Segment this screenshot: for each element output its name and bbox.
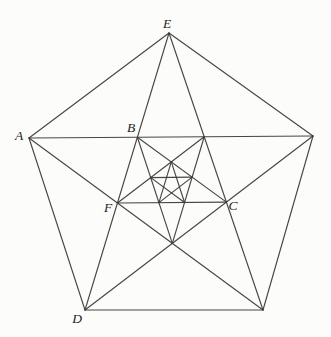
- pentagram-diagonal-level-3: [159, 162, 171, 203]
- pentagram-diagonal-level-2: [117, 137, 204, 203]
- pentagram-diagonal-level-1: [169, 33, 263, 310]
- pentagram-diagonal-level-1: [29, 136, 313, 138]
- pentagram-diagonal-level-2: [117, 202, 226, 203]
- pentagram-diagonal-level-1: [85, 136, 313, 310]
- pentagon-side: [29, 138, 85, 310]
- pentagon-side: [169, 33, 313, 136]
- nested-pentagram-diagram: [0, 0, 331, 337]
- pentagon-side: [29, 33, 169, 138]
- pentagram-diagonal-level-1: [85, 33, 169, 310]
- pentagon-side: [263, 136, 313, 310]
- pentagram-diagonal-level-2: [137, 137, 226, 202]
- pentagram-diagonal-level-3: [159, 177, 192, 203]
- pentagram-diagonal-level-3: [151, 178, 185, 203]
- pentagram-diagonal-level-2: [172, 137, 204, 244]
- pentagram-diagonal-level-3: [171, 162, 184, 203]
- pentagram-figure: EABFCD: [0, 0, 331, 337]
